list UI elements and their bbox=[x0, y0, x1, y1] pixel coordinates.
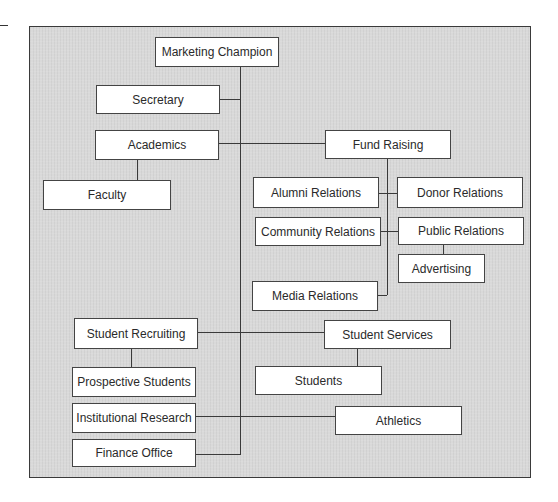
connector-finance-office bbox=[195, 454, 241, 455]
node-donor-relations: Donor Relations bbox=[397, 177, 523, 208]
connector-academics-fund-raising bbox=[219, 143, 325, 144]
node-academics: Academics bbox=[95, 130, 219, 160]
connector-academics-faculty bbox=[137, 160, 138, 180]
node-institutional-research: Institutional Research bbox=[72, 403, 196, 433]
connector-services-students bbox=[357, 348, 358, 366]
node-student-recruiting: Student Recruiting bbox=[74, 318, 198, 349]
node-finance-office: Finance Office bbox=[72, 439, 196, 467]
node-community-relations: Community Relations bbox=[255, 217, 381, 246]
node-secretary: Secretary bbox=[96, 85, 220, 114]
node-fund-raising: Fund Raising bbox=[325, 130, 451, 159]
margin-tick-mark bbox=[0, 25, 8, 26]
connector-recruiting-services bbox=[197, 332, 324, 333]
node-student-services: Student Services bbox=[324, 320, 451, 349]
node-media-relations: Media Relations bbox=[252, 281, 378, 311]
connector-alumni-donor bbox=[379, 193, 397, 194]
node-marketing-champion: Marketing Champion bbox=[155, 37, 279, 67]
connector-public-advertising bbox=[443, 245, 444, 254]
connector-media-relations bbox=[378, 295, 387, 296]
node-faculty: Faculty bbox=[43, 180, 171, 210]
node-public-relations: Public Relations bbox=[398, 217, 524, 245]
node-prospective-students: Prospective Students bbox=[72, 367, 196, 397]
connector-research-athletics bbox=[195, 416, 335, 417]
connector-community-public bbox=[381, 231, 398, 232]
fund-raising-trunk-line bbox=[387, 159, 388, 295]
connector-secretary bbox=[220, 99, 240, 100]
node-advertising: Advertising bbox=[398, 254, 485, 283]
main-trunk-line bbox=[240, 67, 241, 455]
node-athletics: Athletics bbox=[335, 406, 462, 435]
connector-recruiting-prospective bbox=[131, 348, 132, 367]
node-students: Students bbox=[255, 366, 382, 395]
node-alumni-relations: Alumni Relations bbox=[253, 177, 379, 208]
